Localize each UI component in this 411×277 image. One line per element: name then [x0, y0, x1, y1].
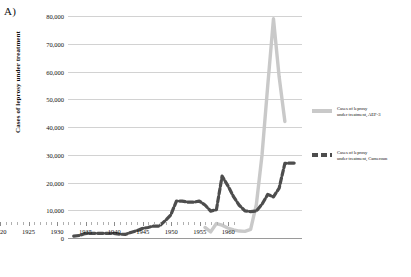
x-axis-tick-label: 1935	[79, 228, 92, 235]
x-axis-minor-tick	[234, 222, 235, 225]
y-axis-tick-label: 80,000	[46, 13, 64, 20]
x-axis-minor-tick	[188, 222, 189, 225]
x-axis-minor-tick	[154, 222, 155, 225]
y-axis-tick-label: 20,000	[46, 179, 64, 186]
x-axis-minor-tick	[97, 222, 98, 225]
x-axis-minor-tick	[194, 222, 195, 225]
x-axis-minor-tick	[103, 222, 104, 225]
x-axis-minor-tick	[34, 222, 35, 225]
x-axis-major-tick	[57, 222, 58, 226]
x-axis-major-tick	[29, 222, 30, 226]
x-axis-minor-tick	[120, 222, 121, 225]
x-axis-tick-label: 1930	[51, 228, 64, 235]
x-axis-minor-tick	[74, 222, 75, 225]
y-axis-tick-label: 40,000	[46, 124, 64, 131]
x-axis-major-tick	[0, 222, 1, 226]
x-axis-minor-tick	[137, 222, 138, 225]
x-axis-minor-tick	[91, 222, 92, 225]
x-axis-minor-tick	[40, 222, 41, 225]
x-axis-tick-label: 1925	[22, 228, 35, 235]
x-axis-major-tick	[171, 222, 172, 226]
y-axis-tick-label: 50,000	[46, 96, 64, 103]
x-axis-tick-label: 1960	[222, 228, 235, 235]
x-axis-minor-tick	[148, 222, 149, 225]
y-axis-tick-label: 70,000	[46, 40, 64, 47]
y-axis-tick-label: 60,000	[46, 68, 64, 75]
y-axis-tick-label: 30,000	[46, 151, 64, 158]
x-axis-minor-tick	[51, 222, 52, 225]
legend-swatch-cameroun	[312, 153, 332, 157]
legend-label-aef: Cases of leprosy under treatment, AEF-3	[337, 106, 411, 118]
x-axis-minor-tick	[126, 222, 127, 225]
x-axis-major-tick	[228, 222, 229, 226]
legend-label-cameroun: Cases of leprosy under treatment, Camero…	[337, 150, 411, 162]
x-axis-minor-tick	[160, 222, 161, 225]
x-axis-tick-label: 1955	[193, 228, 206, 235]
x-axis-minor-tick	[11, 222, 12, 225]
legend-entry-aef: Cases of leprosy under treatment, AEF-3	[312, 106, 411, 118]
x-axis-minor-tick	[211, 222, 212, 225]
x-axis-minor-tick	[80, 222, 81, 225]
x-axis-tick-label: 1950	[165, 228, 178, 235]
legend-swatch-aef	[312, 109, 332, 113]
x-axis-major-tick	[200, 222, 201, 226]
y-axis-title: Cases of leprosy under treatment	[14, 12, 22, 152]
legend-label-aef-line2: under treatment, AEF-3	[337, 112, 411, 118]
x-axis-minor-tick	[177, 222, 178, 225]
x-axis-tick-label: 1940	[108, 228, 121, 235]
x-axis-minor-tick	[108, 222, 109, 225]
x-axis-major-tick	[143, 222, 144, 226]
x-axis-minor-tick	[131, 222, 132, 225]
plot-area: 010,00020,00030,00040,00050,00060,00070,…	[68, 16, 302, 238]
x-axis-tick-label: 1945	[136, 228, 149, 235]
x-axis-minor-tick	[23, 222, 24, 225]
x-axis-major-tick	[86, 222, 87, 226]
x-axis-major-tick	[114, 222, 115, 226]
legend-label-cameroun-line2: under treatment, Cameroun	[337, 156, 411, 162]
x-axis-minor-tick	[166, 222, 167, 225]
y-axis-tick-label: 10,000	[46, 207, 64, 214]
x-axis: 192019251930193519401945195019551960	[0, 222, 234, 256]
x-axis-tick-label: 1920	[0, 228, 7, 235]
x-axis-minor-tick	[63, 222, 64, 225]
legend-entry-cameroun: Cases of leprosy under treatment, Camero…	[312, 150, 411, 162]
legend: Cases of leprosy under treatment, AEF-3 …	[312, 106, 411, 194]
x-axis-minor-tick	[205, 222, 206, 225]
x-axis-minor-tick	[17, 222, 18, 225]
x-axis-minor-tick	[223, 222, 224, 225]
x-axis-minor-tick	[217, 222, 218, 225]
series-lines	[68, 16, 302, 238]
chart-panel: A) Cases of leprosy under treatment 010,…	[0, 0, 411, 277]
x-axis-minor-tick	[68, 222, 69, 225]
x-axis-minor-tick	[183, 222, 184, 225]
x-axis-minor-tick	[6, 222, 7, 225]
x-axis-minor-tick	[46, 222, 47, 225]
